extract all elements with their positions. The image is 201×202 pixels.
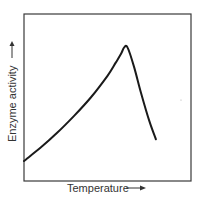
stray-mark xyxy=(180,99,181,100)
activity-curve xyxy=(24,46,156,161)
x-axis-arrow-icon xyxy=(140,186,146,191)
y-axis-label: Enzyme activity xyxy=(6,65,18,142)
enzyme-activity-chart: Enzyme activity Temperature xyxy=(0,0,201,202)
plot-frame xyxy=(24,14,191,181)
x-axis-label: Temperature xyxy=(67,182,129,194)
y-axis-label-group: Enzyme activity xyxy=(6,41,18,142)
x-axis-label-group: Temperature xyxy=(67,182,146,194)
y-axis-arrow-icon xyxy=(10,41,15,46)
